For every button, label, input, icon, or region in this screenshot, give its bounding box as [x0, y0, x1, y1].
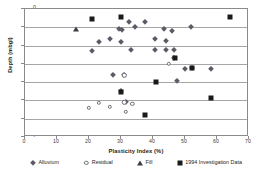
legend-label: 1994 Investigation Data: [185, 160, 242, 165]
diamond-icon: [30, 160, 36, 166]
data-point-square: [119, 14, 124, 19]
data-point-diamond: [188, 24, 194, 30]
x-tick-label: 70: [238, 139, 257, 144]
data-point-circle: [130, 102, 134, 106]
data-point-square: [173, 56, 178, 61]
data-point-circle: [108, 105, 112, 109]
square-icon: [177, 160, 183, 166]
data-point-diamond: [163, 47, 169, 53]
scatter-chart: Depth (mbgl) 0-1-2-3-4-5-6-7 01020304050…: [0, 0, 257, 172]
data-point-square: [119, 89, 124, 94]
data-point-square: [227, 15, 232, 20]
data-point-diamond: [142, 19, 148, 25]
legend-label: Alluvium: [39, 160, 59, 165]
x-tick-mark: [216, 136, 217, 139]
gridline: [25, 46, 247, 47]
data-point-circle: [124, 110, 128, 114]
y-axis-title: Depth (mbgl): [7, 23, 13, 87]
x-tick-label: 10: [46, 139, 66, 144]
gridline: [25, 64, 247, 65]
data-point-diamond: [182, 66, 188, 72]
x-axis-title: Plasticity Index (%): [24, 148, 248, 154]
x-tick-mark: [184, 136, 185, 139]
gridline: [25, 82, 247, 83]
triangle-icon: [137, 160, 143, 166]
plot-area: [24, 8, 248, 136]
x-tick-label: 20: [78, 139, 98, 144]
legend-item-fill[interactable]: Fill: [137, 160, 152, 166]
x-tick-label: 40: [142, 139, 162, 144]
legend-label: Residual: [92, 160, 113, 165]
gridline: [25, 119, 247, 120]
x-tick-mark: [56, 136, 57, 139]
data-point-diamond: [128, 47, 134, 53]
x-tick-label: 50: [174, 139, 194, 144]
x-tick-mark: [88, 136, 89, 139]
data-point-diamond: [169, 28, 175, 34]
data-point-diamond: [110, 72, 116, 78]
data-point-diamond: [89, 48, 95, 54]
legend-item-residual[interactable]: Residual: [83, 160, 112, 166]
circle-icon: [83, 160, 89, 166]
data-point-diamond: [163, 38, 169, 44]
data-point-square: [154, 79, 159, 84]
data-point-triangle: [73, 27, 79, 32]
x-tick-mark: [248, 136, 249, 139]
gridline: [25, 100, 247, 101]
data-point-square: [143, 113, 148, 118]
data-point-diamond: [171, 47, 177, 53]
data-point-circle: [87, 106, 91, 110]
data-point-diamond: [107, 36, 113, 42]
data-point-square: [190, 65, 195, 70]
data-point-circle: [167, 62, 171, 66]
x-tick-label: 0: [14, 139, 34, 144]
chart-legend: AlluviumResidualFill1994 Investigation D…: [24, 160, 248, 166]
data-point-diamond: [126, 19, 132, 25]
data-point-square: [90, 16, 95, 21]
data-point-circle: [96, 100, 100, 104]
data-point-diamond: [152, 47, 158, 53]
data-point-diamond: [96, 39, 102, 45]
x-tick-mark: [120, 136, 121, 139]
x-tick-mark: [152, 136, 153, 139]
data-point-diamond: [118, 39, 124, 45]
data-point-diamond: [208, 66, 214, 72]
x-tick-mark: [24, 136, 25, 139]
data-point-diamond: [119, 27, 125, 33]
x-tick-label: 60: [206, 139, 226, 144]
legend-item-1994-investigation-data[interactable]: 1994 Investigation Data: [177, 160, 242, 166]
legend-label: Fill: [146, 160, 153, 165]
data-point-diamond: [152, 36, 158, 42]
x-tick-label: 30: [110, 139, 130, 144]
data-point-square: [208, 95, 213, 100]
data-point-circle: [122, 73, 126, 77]
legend-item-alluvium[interactable]: Alluvium: [30, 160, 59, 166]
data-point-diamond: [132, 24, 138, 30]
